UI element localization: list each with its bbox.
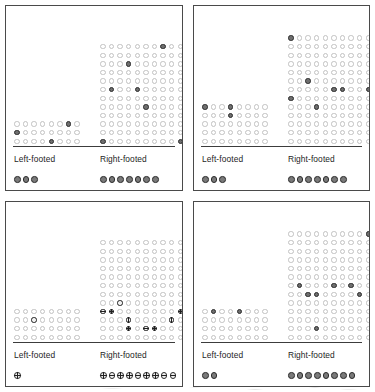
marked-dot	[313, 290, 322, 299]
summary-dot	[14, 372, 21, 379]
open-dot	[176, 299, 183, 308]
open-dot	[133, 290, 142, 299]
open-dot	[99, 247, 108, 256]
open-dot	[304, 86, 313, 95]
open-dot	[253, 333, 262, 342]
open-dot	[364, 103, 370, 112]
open-dot	[168, 129, 177, 138]
open-dot	[330, 112, 339, 121]
open-dot	[99, 103, 108, 112]
open-dot	[73, 308, 82, 317]
summary-row-right	[100, 372, 176, 379]
open-dot	[296, 273, 305, 282]
open-dot	[133, 333, 142, 342]
open-dot	[244, 112, 253, 121]
open-dot	[330, 316, 339, 325]
open-dot	[142, 333, 151, 342]
marked-dot	[364, 86, 370, 95]
open-dot	[364, 120, 370, 129]
open-dot	[142, 129, 151, 138]
panel-frame: Left-footedRight-footed	[193, 201, 370, 387]
open-dot	[151, 86, 160, 95]
marked-dot	[330, 282, 339, 291]
open-dot	[296, 316, 305, 325]
open-dot	[133, 112, 142, 121]
open-dot	[287, 86, 296, 95]
open-dot	[116, 239, 125, 248]
open-dot	[65, 308, 74, 317]
open-dot	[364, 137, 370, 146]
open-dot	[347, 120, 356, 129]
summary-row-left	[14, 176, 38, 183]
open-dot	[159, 51, 168, 60]
open-dot	[356, 69, 365, 78]
marked-dot	[304, 77, 313, 86]
open-dot	[218, 103, 227, 112]
open-dot	[339, 34, 348, 43]
open-dot	[287, 247, 296, 256]
open-dot	[13, 308, 22, 317]
open-dot	[253, 112, 262, 121]
open-dot	[56, 333, 65, 342]
marked-dot	[116, 299, 125, 308]
summary-row-left	[202, 176, 226, 183]
open-dot	[108, 290, 117, 299]
open-dot	[125, 290, 134, 299]
open-dot	[159, 316, 168, 325]
open-dot	[339, 265, 348, 274]
summary-row-right	[288, 372, 355, 379]
open-dot	[261, 103, 270, 112]
open-dot	[176, 60, 183, 69]
summary-dot	[314, 372, 321, 379]
open-dot	[159, 265, 168, 274]
open-dot	[142, 43, 151, 52]
open-dot	[159, 86, 168, 95]
open-dot	[235, 120, 244, 129]
summary-dot-rows	[194, 176, 369, 190]
open-dot	[304, 103, 313, 112]
open-dot	[356, 299, 365, 308]
open-dot	[116, 256, 125, 265]
dot-matrix	[13, 120, 82, 146]
open-dot	[65, 137, 74, 146]
open-dot	[304, 69, 313, 78]
open-dot	[364, 333, 370, 342]
summary-dot	[170, 372, 177, 379]
open-dot	[296, 265, 305, 274]
open-dot	[313, 34, 322, 43]
axis-labels: Left-footedRight-footed	[194, 350, 369, 366]
open-dot	[287, 230, 296, 239]
open-dot	[151, 120, 160, 129]
open-dot	[108, 103, 117, 112]
summary-dot	[331, 372, 338, 379]
open-dot	[151, 94, 160, 103]
open-dot	[330, 94, 339, 103]
summary-dot	[143, 372, 150, 379]
open-dot	[244, 120, 253, 129]
open-dot	[347, 69, 356, 78]
open-dot	[364, 282, 370, 291]
open-dot	[116, 333, 125, 342]
open-dot	[304, 316, 313, 325]
open-dot	[356, 129, 365, 138]
open-dot	[73, 120, 82, 129]
open-dot	[30, 129, 39, 138]
open-dot	[99, 94, 108, 103]
open-dot	[13, 325, 22, 334]
summary-dot	[109, 176, 116, 183]
open-dot	[159, 120, 168, 129]
open-dot	[364, 51, 370, 60]
open-dot	[159, 282, 168, 291]
open-dot	[330, 69, 339, 78]
marked-dot	[125, 325, 134, 334]
open-dot	[22, 333, 31, 342]
open-dot	[30, 325, 39, 334]
summary-dot	[323, 372, 330, 379]
marked-dot	[142, 325, 151, 334]
open-dot	[176, 129, 183, 138]
open-dot	[364, 43, 370, 52]
open-dot	[304, 60, 313, 69]
open-dot	[116, 103, 125, 112]
open-dot	[339, 43, 348, 52]
open-dot	[133, 273, 142, 282]
